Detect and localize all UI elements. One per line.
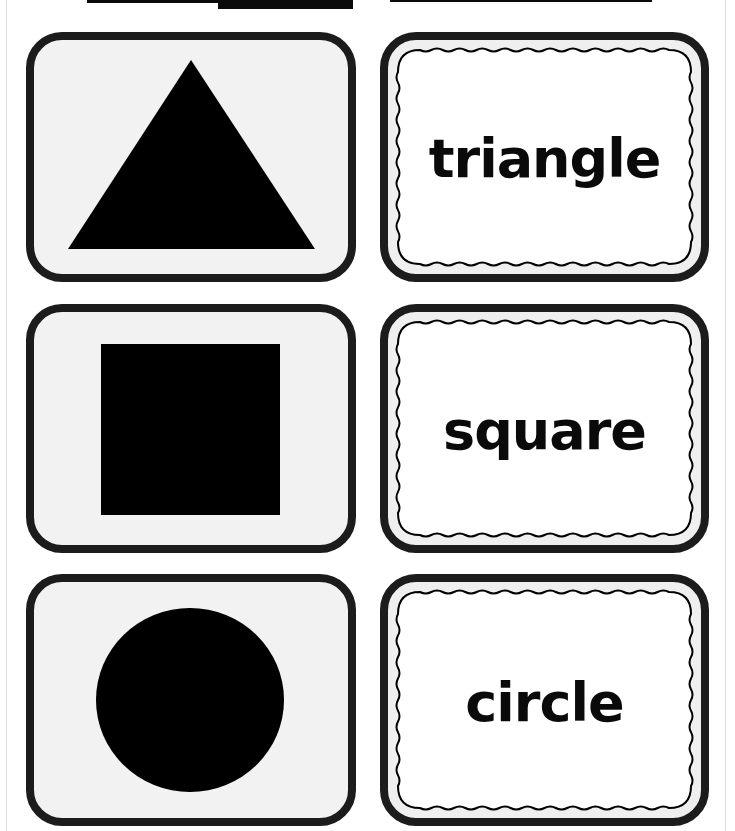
page-edge-left [6, 0, 7, 831]
triangle-shape-icon [34, 40, 348, 274]
word-card-circle[interactable]: circle [380, 574, 709, 826]
word-label: square [388, 404, 701, 458]
word-label: circle [388, 676, 701, 730]
word-card-triangle[interactable]: triangle [380, 32, 709, 282]
circle-shape-icon [34, 582, 348, 818]
page-edge-right [725, 0, 726, 831]
previous-card-edge-fragment [218, 0, 353, 9]
previous-card-edge-fragment [390, 0, 652, 2]
shape-card-circle[interactable] [26, 574, 356, 826]
shape-card-square[interactable] [26, 304, 356, 553]
square-shape-icon [34, 312, 348, 545]
word-label: triangle [388, 132, 701, 186]
shape-card-triangle[interactable] [26, 32, 356, 282]
word-card-square[interactable]: square [380, 304, 709, 553]
previous-card-edge-fragment [87, 0, 218, 3]
